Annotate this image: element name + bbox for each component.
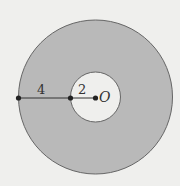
outer-point xyxy=(16,95,21,100)
center-point xyxy=(93,95,98,100)
inner-point xyxy=(68,95,73,100)
segment-inner-label: 2 xyxy=(78,82,86,97)
segment-outer-label: 4 xyxy=(37,82,45,97)
center-label: O xyxy=(99,89,111,105)
annulus-diagram: 4 2 O xyxy=(0,0,180,186)
